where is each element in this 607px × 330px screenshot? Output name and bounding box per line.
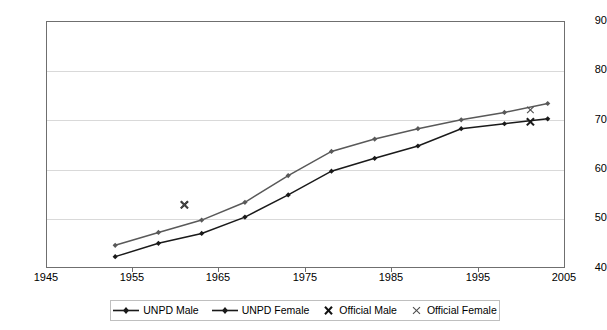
- data-point-marker: [156, 241, 161, 246]
- data-point-marker: [372, 156, 377, 161]
- series-line: [115, 103, 548, 245]
- legend-item-official-female[interactable]: Official Female: [410, 305, 497, 316]
- data-point-marker: [199, 217, 204, 222]
- x-marker-thin-icon: [410, 305, 423, 316]
- series-line: [115, 119, 548, 257]
- data-point-marker: [459, 126, 464, 131]
- series-official-female: [181, 107, 534, 208]
- data-point-marker: [502, 121, 507, 126]
- legend-item-official-male[interactable]: Official Male: [322, 305, 397, 316]
- legend-label: Official Female: [427, 305, 497, 316]
- data-point-marker: [113, 254, 118, 259]
- series-unpd-male: [113, 116, 551, 259]
- data-point-marker: [156, 230, 161, 235]
- legend-label: UNPD Female: [242, 305, 310, 316]
- series-unpd-female: [113, 101, 551, 248]
- chart-legend: UNPD Male UNPD Female Official Male Offi…: [110, 300, 500, 321]
- legend-item-unpd-male[interactable]: UNPD Male: [113, 305, 198, 316]
- chart-container: 90 80 70 60 50 40 1945 1955 1965 1975 19…: [0, 0, 607, 330]
- data-point-marker: [545, 101, 550, 106]
- line-diamond-gray-icon: [212, 305, 238, 316]
- data-point-marker: [415, 143, 420, 148]
- x-marker-bold-icon: [322, 305, 335, 316]
- legend-label: UNPD Male: [143, 305, 198, 316]
- data-point-marker: [199, 231, 204, 236]
- data-point-marker: [415, 126, 420, 131]
- data-point-marker: [502, 110, 507, 115]
- data-point-marker: [459, 117, 464, 122]
- data-series-layer: [0, 0, 607, 330]
- data-point-marker: [113, 243, 118, 248]
- data-point-marker: [545, 116, 550, 121]
- line-diamond-dark-icon: [113, 305, 139, 316]
- data-point-marker: [242, 215, 247, 220]
- data-point-marker: [372, 136, 377, 141]
- legend-item-unpd-female[interactable]: UNPD Female: [212, 305, 310, 316]
- legend-label: Official Male: [339, 305, 397, 316]
